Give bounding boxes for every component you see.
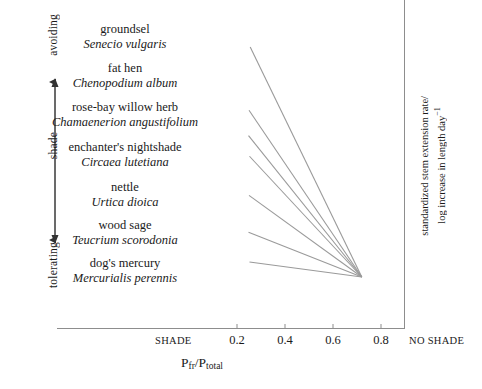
x-tick-label-0.8: 0.8 [361, 333, 401, 348]
response-line [249, 136, 362, 277]
response-lines-plot [0, 0, 482, 389]
y-axis-right-line2: log increase in length day−1 [431, 96, 448, 236]
x-tick-label-0.2: 0.2 [217, 333, 257, 348]
x-axis-title-p: P [181, 355, 189, 370]
y-axis-right-line [404, 0, 405, 329]
response-line [249, 156, 361, 277]
y-axis-right-label: standardized stem extension rate/ log in… [418, 96, 448, 236]
figure-canvas: avoiding shade tolerating groundsel Sene… [0, 0, 482, 389]
response-line [249, 110, 362, 277]
x-tick-label-0.4: 0.4 [265, 333, 305, 348]
x-axis-title-slash-p: /P [195, 355, 206, 370]
y-axis-right-exponent: −1 [433, 108, 442, 117]
y-axis-right-line1: standardized stem extension rate/ [418, 96, 431, 236]
response-line [249, 232, 362, 277]
x-axis-title: Pfr/Ptotal [0, 355, 404, 371]
x-tick-label-0.6: 0.6 [313, 333, 353, 348]
species-response-lines [249, 47, 362, 277]
x-axis-ticks [237, 324, 381, 329]
x-axis-right-end-label: NO SHADE [409, 335, 464, 346]
x-axis-title-sub-total: total [206, 361, 223, 371]
response-line [250, 47, 362, 277]
x-axis-left-end-label: SHADE [155, 335, 192, 346]
